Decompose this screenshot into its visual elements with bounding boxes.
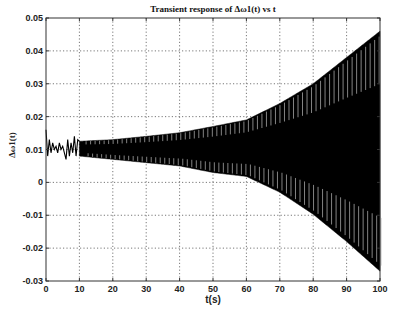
initial-transient [46,130,79,160]
x-tick-label: 50 [208,284,218,294]
y-tick-label: 0.01 [25,145,43,155]
y-tick-label: 0.02 [25,112,43,122]
signal-trace [46,31,381,271]
y-tick-label: 0.05 [25,13,43,23]
chart: Transient response of Δω1(t) vs t 010203… [0,0,393,315]
chart-title: Transient response of Δω1(t) vs t [150,4,276,14]
x-tick-label: 10 [74,284,84,294]
x-tick-label: 60 [241,284,251,294]
y-axis-label: Δω1(t) [7,132,17,158]
x-axis-label: t(s) [205,294,221,305]
y-tick-label: 0 [38,177,43,187]
y-tick-label: 0.03 [25,79,43,89]
x-tick-label: 90 [342,284,352,294]
x-tick-label: 70 [275,284,285,294]
y-tick-label: -0.02 [22,243,43,253]
y-tick-label: -0.03 [22,276,43,286]
x-tick-label: 100 [372,284,387,294]
x-tick-label: 0 [43,284,48,294]
x-tick-label: 40 [175,284,185,294]
x-tick-label: 80 [308,284,318,294]
y-tick-label: -0.01 [22,210,43,220]
y-tick-label: 0.04 [25,46,43,56]
x-tick-label: 20 [108,284,118,294]
x-tick-label: 30 [141,284,151,294]
oscillation-envelope [79,31,380,271]
